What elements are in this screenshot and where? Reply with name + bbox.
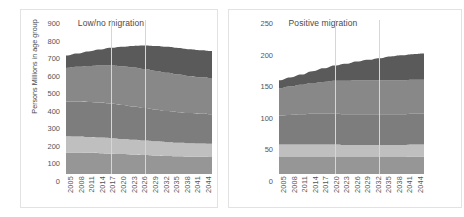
vertical-gridline <box>335 20 336 174</box>
area-band-0-14-yrs <box>279 156 424 174</box>
y-tick-label: 800 <box>47 38 60 46</box>
y-tick-label: 250 <box>260 20 273 28</box>
x-tick-label: 2020 <box>333 176 341 193</box>
x-tick-label: 2038 <box>184 176 192 193</box>
y-tick-label: 400 <box>47 108 60 116</box>
chart-panel-low-no-migration: Low/no migration Persons Millions in age… <box>20 9 218 208</box>
x-tick-label: 2035 <box>173 176 181 193</box>
x-axis-ticks-left: 2005200820112014201720202023202620292032… <box>66 176 212 210</box>
x-tick-label: 2032 <box>163 176 171 193</box>
x-tick-label: 2038 <box>396 176 404 193</box>
y-tick-label: 300 <box>47 125 60 133</box>
x-tick-label: 2029 <box>364 176 372 193</box>
x-tick-label: 2011 <box>301 176 309 193</box>
x-tick-label: 2017 <box>322 176 330 193</box>
y-tick-label: 50 <box>265 146 273 154</box>
x-tick-label: 2041 <box>406 176 414 193</box>
x-tick-label: 2023 <box>131 176 139 193</box>
x-tick-label: 2020 <box>120 176 128 193</box>
x-tick-label: 2044 <box>205 176 213 193</box>
y-tick-label: 700 <box>47 55 60 63</box>
x-tick-label: 2035 <box>385 176 393 193</box>
chart-figure: Low/no migration Persons Millions in age… <box>0 0 464 217</box>
y-axis-ticks-right: 050100150200250 <box>231 24 277 182</box>
vertical-gridline <box>145 20 146 174</box>
y-tick-label: 0 <box>56 178 60 186</box>
chart-panel-positive-migration: Positive migration 050100150200250 20052… <box>228 9 462 208</box>
y-axis-ticks-left: 0100200300400500600700800900 <box>21 24 64 182</box>
x-tick-label: 2008 <box>78 176 86 193</box>
x-tick-label: 2005 <box>280 176 288 193</box>
stacked-area-bands-right <box>279 32 424 174</box>
x-tick-label: 2026 <box>354 176 362 193</box>
x-tick-label: 2011 <box>88 176 96 193</box>
x-tick-label: 2017 <box>109 176 117 193</box>
x-tick-label: 2044 <box>417 176 425 193</box>
x-tick-label: 2023 <box>343 176 351 193</box>
y-tick-label: 100 <box>47 160 60 168</box>
area-band-15-24-yrs <box>279 144 424 157</box>
x-tick-label: 2005 <box>67 176 75 193</box>
area-band-25-44-yrs <box>279 114 424 145</box>
x-tick-label: 2041 <box>194 176 202 193</box>
y-tick-label: 100 <box>260 115 273 123</box>
vertical-gridline <box>111 20 112 174</box>
y-tick-label: 200 <box>47 143 60 151</box>
y-tick-label: 600 <box>47 73 60 81</box>
x-axis-ticks-right: 2005200820112014201720202023202620292032… <box>279 176 424 210</box>
y-tick-label: 200 <box>260 52 273 60</box>
plot-area-right <box>279 32 424 174</box>
x-tick-label: 2026 <box>141 176 149 193</box>
x-tick-label: 2014 <box>312 176 320 193</box>
y-tick-label: 500 <box>47 90 60 98</box>
stacked-area-bands-left <box>66 32 212 174</box>
x-tick-label: 2029 <box>152 176 160 193</box>
vertical-gridline <box>379 20 380 174</box>
area-band-45-69-yrs <box>279 80 424 116</box>
x-tick-label: 2008 <box>291 176 299 193</box>
y-tick-label: 900 <box>47 20 60 28</box>
x-tick-label: 2014 <box>99 176 107 193</box>
plot-area-left <box>66 32 212 174</box>
y-tick-label: 0 <box>269 178 273 186</box>
x-tick-label: 2032 <box>375 176 383 193</box>
y-tick-label: 150 <box>260 83 273 91</box>
